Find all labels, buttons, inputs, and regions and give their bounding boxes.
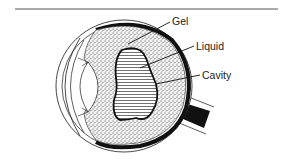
label-liquid: Liquid [196,40,224,52]
label-cavity: Cavity [202,69,232,81]
label-gel: Gel [172,15,188,27]
eye-diagram: Gel Liquid Cavity [0,0,287,163]
